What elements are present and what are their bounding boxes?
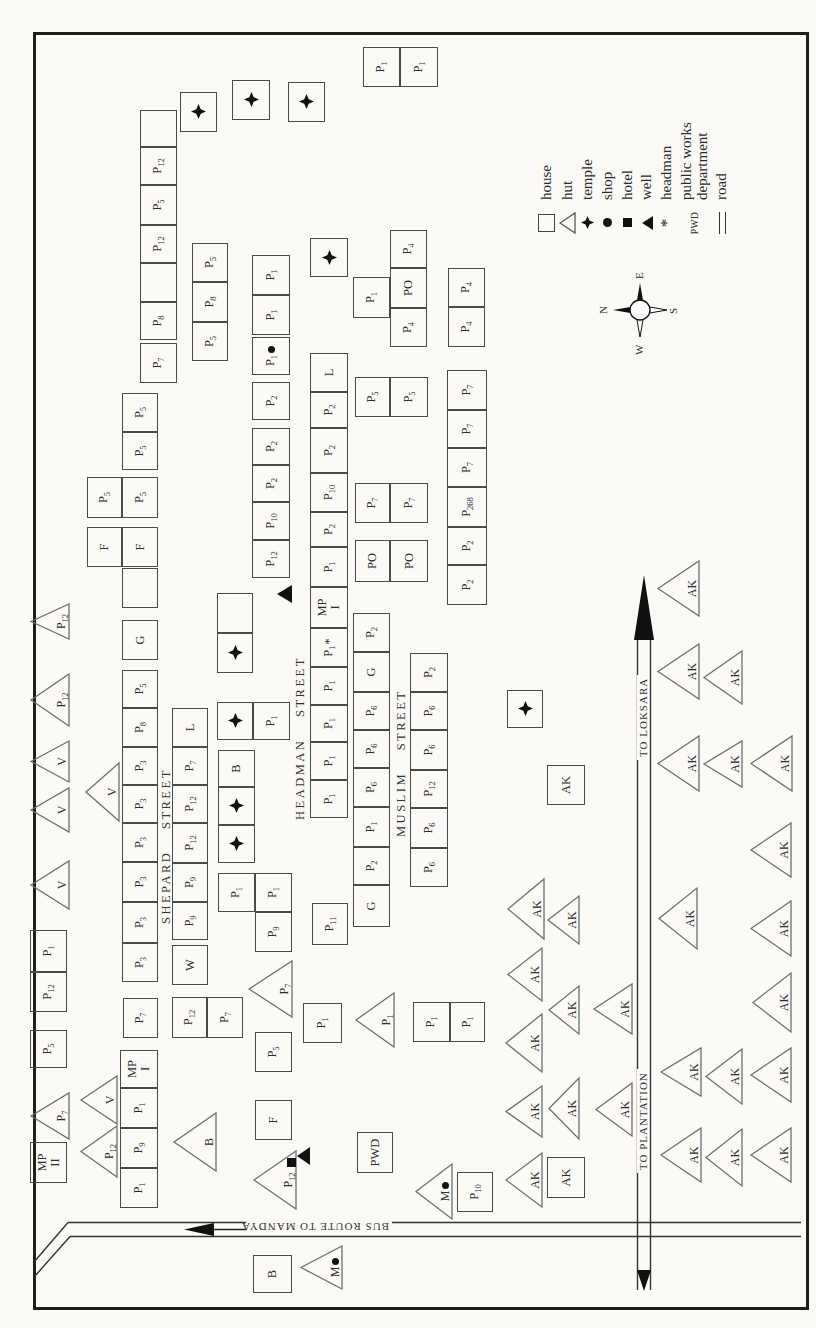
house-P12: P12 [410, 770, 448, 808]
house-P1: P1 [310, 742, 348, 780]
house-P4: P4 [448, 268, 485, 307]
hut-P7: P7 [30, 1092, 70, 1140]
legend-item-hut: hut [559, 90, 576, 238]
hut-P1: P1 [355, 992, 395, 1048]
shop-dot-icon [332, 1258, 339, 1265]
house-MPII: MPII [30, 1142, 67, 1183]
house-P2: P2 [310, 512, 348, 547]
house-L: L [172, 708, 208, 747]
house-P3: P3 [122, 785, 158, 823]
hut-AK: AK [505, 1152, 543, 1208]
house-MPI: MPI [120, 1050, 158, 1088]
hut-AK: AK [705, 1048, 743, 1105]
house-P5: P5 [192, 322, 228, 361]
house-P1: P1 [252, 337, 290, 375]
house-P12: P12 [252, 540, 290, 578]
house-PO: PO [355, 540, 390, 582]
house-P5: P5 [122, 670, 158, 708]
pwd-icon: PWD [690, 212, 700, 235]
house-P9: P9 [120, 1128, 158, 1168]
temple-star-icon [229, 799, 244, 814]
hut-AK: AK [507, 878, 545, 940]
temple [218, 787, 255, 825]
house-blank [140, 110, 177, 147]
temple-star-icon [299, 95, 314, 110]
house-P5: P5 [355, 377, 390, 417]
house-P3: P3 [122, 943, 158, 982]
house-PWD: PWD [357, 1132, 393, 1173]
house-P1: P1 [310, 705, 348, 742]
compass-e: E [633, 272, 645, 279]
house-P9: P9 [172, 863, 208, 902]
temple [507, 690, 543, 728]
house-P4: P4 [390, 308, 427, 347]
house-P1: P1 [30, 930, 67, 972]
hut-V: V [85, 762, 120, 822]
temple-star-icon [244, 93, 259, 108]
hut-AK: AK [750, 900, 792, 957]
house-P268: P268 [447, 487, 487, 527]
house-P1: P1 [363, 47, 400, 87]
compass-rose: NESW [605, 275, 675, 345]
house-P6: P6 [410, 848, 448, 887]
house-P6: P6 [353, 692, 390, 730]
hut-AK: AK [548, 1077, 580, 1140]
hut-V: V [80, 1075, 118, 1125]
hut-P12: P12 [80, 1125, 118, 1178]
house-G: G [122, 620, 158, 660]
temple-star-icon [581, 217, 594, 230]
road-icon [719, 212, 726, 234]
headman-icon: * [663, 219, 671, 228]
house-P8: P8 [192, 282, 228, 322]
house-blank [217, 593, 253, 633]
house-G: G [353, 885, 390, 927]
hut-AK: AK [705, 1128, 743, 1187]
house-P5: P5 [122, 477, 158, 518]
hut-AK: AK [703, 650, 743, 705]
temple-star-icon [228, 714, 243, 729]
house-P1: P1 [252, 255, 290, 295]
house-P5: P5 [192, 243, 228, 282]
street-label-headman: HEADMAN STREET [293, 650, 308, 820]
house-P1: P1 [353, 807, 390, 847]
house-L: L [310, 353, 348, 392]
house-P12: P12 [140, 147, 177, 185]
hut-AK: AK [703, 740, 743, 788]
house-P3: P3 [122, 902, 158, 943]
house-P7: P7 [207, 997, 243, 1038]
headman-asterisk-icon: * [322, 638, 335, 645]
hut-P12: P12 [30, 603, 70, 640]
well-icon [642, 216, 653, 230]
house-PO: PO [390, 268, 427, 308]
hut-AK: AK [750, 1047, 792, 1103]
temple-star-icon [518, 702, 533, 717]
hut-AK: AK [593, 983, 633, 1035]
hut-P12: P12 [253, 1150, 297, 1210]
house-P12: P12 [172, 997, 207, 1038]
shop-dot-icon [268, 346, 275, 353]
house-W: W [172, 945, 208, 985]
house-P7: P7 [140, 343, 177, 383]
house-P1: P1 [353, 277, 390, 318]
house-G: G [353, 652, 390, 692]
house-P5: P5 [30, 1030, 67, 1068]
temple [310, 238, 348, 277]
house-P2: P2 [252, 465, 290, 502]
hut-AK: AK [660, 1127, 702, 1183]
hut-V: V [30, 860, 70, 910]
house-P10: P10 [310, 473, 348, 512]
house-F: F [122, 527, 158, 567]
hut-AK: AK [547, 895, 580, 945]
house-P9: P9 [172, 902, 208, 940]
house-P5: P5 [255, 1032, 292, 1072]
house-P6: P6 [410, 730, 448, 770]
shop-icon [603, 219, 612, 228]
house-P2: P2 [447, 565, 487, 605]
house-P2: P2 [252, 382, 290, 420]
temple [217, 702, 253, 740]
road-label-to-loksara: TO LOKSARA [637, 675, 649, 760]
hut-AK: AK [505, 1013, 543, 1073]
house-P12: P12 [30, 972, 67, 1012]
house-B: B [253, 1255, 292, 1293]
compass-icon [605, 275, 675, 345]
